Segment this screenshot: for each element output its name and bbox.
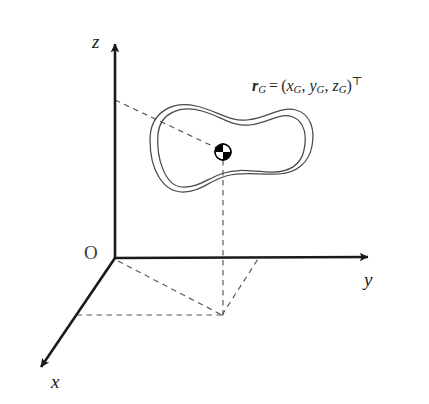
- vector-transpose-symbol: ⊤: [352, 75, 363, 87]
- vector-comma-2: ,: [324, 77, 328, 94]
- vector-symbol-r-subscript: G: [258, 83, 266, 95]
- figure-root: z y x O rG=(xG, yG, zG)⊤: [0, 0, 429, 404]
- diagram-canvas: [0, 0, 429, 404]
- origin-label: O: [84, 243, 98, 262]
- vector-equals-sign: =: [266, 77, 281, 94]
- position-vector-dashed-line: [115, 100, 221, 150]
- rigid-body-outline: [150, 105, 313, 192]
- vector-component-y: y: [309, 77, 316, 94]
- center-of-mass-symbol: [215, 144, 231, 160]
- construction-lines: [78, 100, 258, 316]
- position-vector-label: rG=(xG, yG, zG)⊤: [252, 78, 363, 94]
- z-axis-label: z: [92, 32, 99, 51]
- x-axis-label: x: [51, 372, 59, 391]
- x-axis-line: [41, 258, 115, 367]
- y-axis-line: [115, 257, 368, 258]
- y-axis-label: y: [364, 270, 372, 289]
- origin-to-foot-dashed-line: [118, 261, 222, 315]
- rigid-body-outer-contour: [150, 105, 313, 192]
- vector-comma-1: ,: [301, 77, 305, 94]
- foot-to-y-axis-dashed-line: [222, 259, 258, 315]
- vector-component-x: x: [286, 77, 293, 94]
